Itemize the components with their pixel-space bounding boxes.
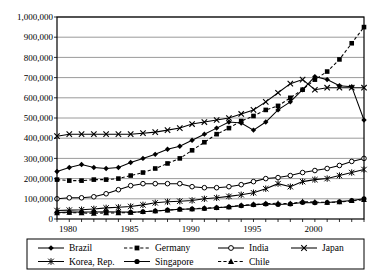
marker-square — [313, 77, 318, 82]
legend-label: Korea, Rep. — [69, 257, 115, 267]
chart-container: 0100,000200,000300,000400,000500,000600,… — [0, 0, 370, 271]
legend-label: India — [249, 243, 269, 253]
x-axis-tick-label: 1985 — [120, 224, 138, 234]
marker-circle-open — [202, 185, 207, 190]
x-axis-tick-label: 1980 — [59, 224, 78, 234]
marker-circle-open — [337, 163, 342, 168]
marker-circle-open — [214, 185, 219, 190]
marker-circle-open — [190, 184, 195, 189]
x-axis-tick-label: 1990 — [182, 224, 201, 234]
marker-square — [300, 87, 305, 92]
y-axis-tick-label: 100,000 — [24, 194, 54, 204]
marker-square — [104, 177, 109, 182]
marker-circle-open — [288, 173, 293, 178]
marker-circle-open — [227, 184, 232, 189]
marker-square — [116, 176, 121, 181]
marker-circle-open — [251, 179, 256, 184]
marker-square — [251, 114, 256, 119]
marker-square — [135, 246, 140, 251]
y-axis-tick-label: 200,000 — [24, 174, 54, 184]
y-axis-tick-label: 500,000 — [24, 113, 54, 123]
marker-square — [263, 108, 268, 113]
y-axis-tick-label: 400,000 — [24, 133, 54, 143]
marker-square — [165, 161, 170, 166]
marker-square — [276, 104, 281, 109]
marker-circle-open — [153, 181, 158, 186]
marker-square — [288, 96, 293, 101]
y-axis-tick-label: 0 — [49, 214, 54, 224]
legend-label: Brazil — [69, 243, 93, 253]
y-axis-tick-label: 300,000 — [24, 154, 54, 164]
marker-square — [214, 132, 219, 137]
marker-square — [178, 156, 183, 161]
legend-label: Japan — [322, 243, 344, 253]
legend-label: Chile — [249, 257, 270, 267]
marker-square — [325, 69, 330, 74]
marker-circle-open — [263, 176, 268, 181]
marker-square — [349, 41, 354, 46]
marker-square — [128, 173, 133, 178]
y-axis-tick-label: 600,000 — [24, 93, 54, 103]
marker-circle-open — [229, 246, 234, 251]
marker-circle-open — [67, 195, 72, 200]
legend-label: Singapore — [155, 257, 194, 267]
marker-circle-open — [141, 181, 146, 186]
marker-circle-open — [128, 183, 133, 188]
marker-square — [67, 178, 72, 183]
marker-circle-open — [313, 168, 318, 173]
marker-circle-open — [104, 191, 109, 196]
marker-square — [190, 148, 195, 153]
marker-square — [337, 57, 342, 62]
marker-circle-open — [325, 166, 330, 171]
line-chart: 0100,000200,000300,000400,000500,000600,… — [0, 0, 370, 271]
x-axis-tick-label: 2000 — [305, 224, 324, 234]
y-axis-tick-label: 900,000 — [24, 32, 54, 42]
marker-square — [92, 177, 97, 182]
legend-label: Germany — [155, 243, 191, 253]
x-axis-tick-label: 1995 — [243, 224, 262, 234]
marker-circle-open — [165, 181, 170, 186]
marker-circle-open — [239, 182, 244, 187]
marker-square — [141, 170, 146, 175]
marker-circle-open — [116, 187, 121, 192]
marker-circle-filled — [134, 259, 139, 264]
marker-circle-open — [92, 194, 97, 199]
y-axis-tick-label: 700,000 — [24, 73, 54, 83]
marker-square — [227, 126, 232, 131]
marker-circle-open — [349, 159, 354, 164]
y-axis-tick-label: 1,000,000 — [17, 12, 54, 22]
marker-square — [239, 119, 244, 124]
marker-circle-open — [300, 170, 305, 175]
marker-circle-open — [79, 195, 84, 200]
marker-circle-open — [276, 175, 281, 180]
marker-square — [202, 140, 207, 145]
marker-square — [79, 178, 84, 183]
marker-circle-open — [178, 181, 183, 186]
marker-square — [153, 166, 158, 171]
y-axis-tick-label: 800,000 — [24, 53, 54, 63]
